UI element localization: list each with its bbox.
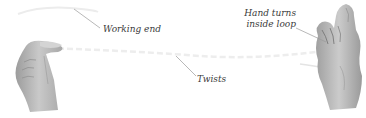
label-working-end: Working end (103, 24, 161, 34)
diagram-svg (0, 0, 366, 118)
label-hand-turns-line1: Hand turns (240, 8, 296, 18)
label-twists: Twists (197, 74, 226, 84)
label-hand-turns-line2: inside loop (240, 19, 296, 29)
left-hand (16, 41, 63, 112)
rope (18, 8, 358, 68)
leader-twists (176, 56, 196, 76)
right-hand (316, 4, 362, 110)
rope-twist-diagram: Working end Twists Hand turns inside loo… (0, 0, 366, 118)
